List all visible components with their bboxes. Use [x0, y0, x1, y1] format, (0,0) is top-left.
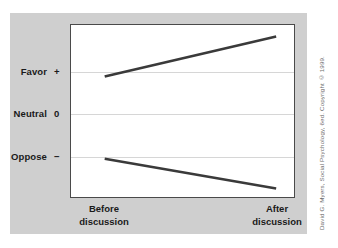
figure-panel: Favor+ Neutral0 Oppose− Before discussio…	[10, 13, 307, 234]
figure-credit-text: David G. Myers, Social Psychology, 6ed. …	[318, 18, 330, 230]
x-axis-label-before: Before discussion	[54, 203, 154, 228]
series-line-opposed	[105, 159, 276, 189]
x-axis-label-after-line1: After	[266, 203, 288, 214]
x-axis-label-after: After discussion	[227, 203, 327, 228]
x-axis-label-after-line2: discussion	[227, 216, 327, 229]
y-axis-label-oppose-text: Oppose	[11, 151, 47, 162]
x-axis-label-before-line1: Before	[89, 203, 119, 214]
y-axis-label-neutral-text: Neutral	[14, 108, 47, 119]
y-axis-symbol-favor: +	[54, 66, 66, 77]
data-lines-group	[71, 25, 294, 197]
y-axis-label-favor-text: Favor	[21, 66, 47, 77]
y-axis-label-oppose: Oppose−	[0, 151, 66, 162]
x-axis-label-before-line2: discussion	[54, 216, 154, 229]
y-axis-symbol-oppose: −	[54, 151, 66, 162]
plot-area	[70, 24, 295, 198]
series-line-favorable	[105, 36, 276, 76]
y-axis-label-favor: Favor+	[0, 66, 66, 77]
y-axis-symbol-neutral: 0	[54, 108, 66, 119]
y-axis-label-neutral: Neutral0	[0, 108, 66, 119]
